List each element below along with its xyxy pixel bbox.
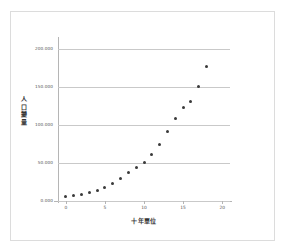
- x-tick-label: 0: [64, 206, 67, 210]
- data-point: [150, 153, 153, 156]
- data-point: [189, 100, 192, 103]
- data-point: [119, 177, 122, 180]
- data-point: [174, 117, 177, 120]
- y-axis-title: 人口變量: [19, 95, 28, 125]
- data-point: [182, 106, 185, 109]
- x-tick-mark: [144, 201, 145, 204]
- x-tick-mark: [66, 201, 67, 204]
- data-point: [205, 65, 208, 68]
- data-point: [64, 195, 67, 198]
- y-tick-label: 100.000: [35, 123, 53, 127]
- data-point: [143, 161, 146, 164]
- data-point: [103, 186, 106, 189]
- data-point: [72, 194, 75, 197]
- gridline-y: [58, 125, 230, 126]
- x-tick-mark: [105, 201, 106, 204]
- data-point: [158, 143, 161, 146]
- x-tick-label: 20: [219, 206, 225, 210]
- x-axis-title: 十年單位: [58, 216, 230, 225]
- y-tick-label: 0.000: [41, 199, 54, 203]
- x-tick-label: 5: [104, 206, 107, 210]
- x-tick-mark: [183, 201, 184, 204]
- x-tick-mark: [222, 201, 223, 204]
- data-point: [135, 166, 138, 169]
- x-tick-label: 15: [180, 206, 186, 210]
- data-point: [111, 182, 114, 185]
- data-point: [197, 85, 200, 88]
- plot-area: 0.00050.000100.000150.000200.000 0510152…: [58, 39, 230, 201]
- data-point: [96, 189, 99, 192]
- y-tick-label: 50.000: [38, 161, 53, 165]
- data-point: [88, 191, 91, 194]
- gridline-y: [58, 87, 230, 88]
- y-axis-line: [58, 37, 59, 203]
- x-tick-label: 10: [141, 206, 147, 210]
- data-point: [80, 193, 83, 196]
- scatter-chart: 人口變量 十年單位 0.00050.000100.000150.000200.0…: [10, 11, 275, 241]
- gridline-y: [58, 49, 230, 50]
- y-tick-label: 150.000: [35, 85, 53, 89]
- y-tick-label: 200.000: [35, 46, 53, 50]
- data-point: [166, 130, 169, 133]
- screenshot-root: 人口變量 十年單位 0.00050.000100.000150.000200.0…: [0, 0, 287, 252]
- data-point: [127, 171, 130, 174]
